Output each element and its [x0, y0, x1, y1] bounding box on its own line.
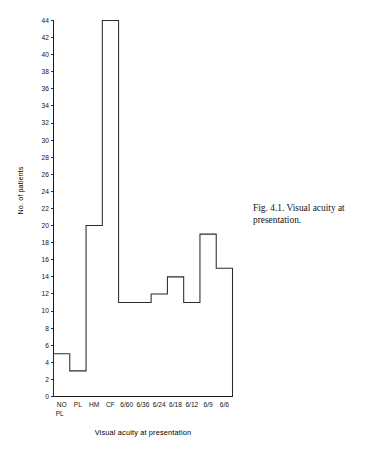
y-tick-label: 26: [42, 171, 50, 178]
y-tick-label: 20: [42, 222, 50, 229]
x-tick-label: CF: [106, 401, 115, 408]
y-tick-label: 18: [42, 239, 50, 246]
y-tick-label: 32: [42, 119, 50, 126]
y-tick-label: 40: [42, 51, 50, 58]
y-tick-label: 42: [42, 34, 50, 41]
x-tick-label: 6/24: [153, 401, 166, 408]
y-tick-label: 14: [42, 273, 50, 280]
x-tick-label: 6/6: [220, 401, 229, 408]
x-tick-label: HM: [89, 401, 99, 408]
y-tick-label: 38: [42, 68, 50, 75]
figure-visual-acuity: 0246810121416182022242628303234363840424…: [0, 0, 260, 464]
y-tick-label: 36: [42, 85, 50, 92]
x-tick-label: PL: [74, 401, 82, 408]
figure-caption: Fig. 4.1. Visual acuity at presentation.: [253, 203, 379, 226]
y-tick-label: 10: [42, 307, 50, 314]
x-tick-label: PL: [56, 410, 64, 417]
y-tick-label: 30: [42, 137, 50, 144]
x-axis-title: Visual acuity at presentation: [53, 428, 233, 437]
chart-plot-area: 0246810121416182022242628303234363840424…: [0, 0, 260, 464]
step-outline-path: [54, 21, 233, 397]
chart-y-ticks: 0246810121416182022242628303234363840424…: [42, 17, 54, 400]
x-tick-label: 6/60: [120, 401, 133, 408]
y-tick-label: 6: [45, 342, 49, 349]
x-tick-label: NO: [57, 401, 67, 408]
chart-step-outline: [54, 21, 233, 397]
y-tick-label: 28: [42, 154, 50, 161]
y-tick-label: 16: [42, 256, 50, 263]
y-tick-label: 8: [45, 325, 49, 332]
x-tick-label: 6/36: [137, 401, 150, 408]
x-tick-label: 6/12: [185, 401, 198, 408]
y-tick-label: 2: [45, 376, 49, 383]
chart-axes: [54, 21, 233, 397]
y-tick-label: 12: [42, 290, 50, 297]
y-tick-label: 0: [45, 393, 49, 400]
y-axis-title: No. of patients: [16, 143, 25, 239]
y-tick-label: 4: [45, 359, 49, 366]
y-tick-label: 22: [42, 205, 50, 212]
x-tick-label: 6/9: [204, 401, 213, 408]
y-tick-label: 44: [42, 17, 50, 24]
y-tick-label: 34: [42, 102, 50, 109]
chart-x-tick-labels: NOPLPLHMCF6/606/366/246/186/126/96/6: [56, 401, 230, 417]
x-tick-label: 6/18: [169, 401, 182, 408]
y-tick-label: 24: [42, 188, 50, 195]
